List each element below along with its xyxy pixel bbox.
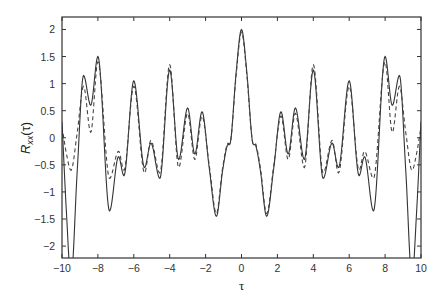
y-tick-label: 0.5 (40, 105, 55, 117)
x-tick-label: 8 (382, 262, 388, 274)
y-axis-ticks: −2−1.5−1−0.500.511.52 (34, 23, 421, 252)
x-tick-label: −8 (92, 262, 104, 274)
x-tick-label: 6 (346, 262, 352, 274)
plot-lines (62, 29, 421, 278)
series-solid (62, 29, 421, 278)
x-axis-ticks: −10−8−6−4−20246810 (53, 17, 427, 274)
x-tick-label: −10 (53, 262, 71, 274)
svg-text:Rxx(τ): Rxx(τ) (18, 122, 35, 154)
y-tick-label: 1.5 (40, 51, 55, 63)
y-tick-label: 0 (49, 132, 55, 144)
x-tick-label: 10 (415, 262, 427, 274)
y-tick-label: −0.5 (34, 159, 55, 171)
y-tick-label: 2 (49, 23, 55, 35)
y-tick-label: −2 (43, 240, 55, 252)
x-tick-label: 4 (310, 262, 316, 274)
x-tick-label: −4 (164, 262, 176, 274)
y-axis-label: Rxx(τ) (18, 122, 35, 154)
y-tick-label: 1 (49, 78, 55, 90)
x-tick-label: 0 (239, 262, 245, 274)
x-axis-label: τ (239, 278, 244, 293)
x-tick-label: 2 (274, 262, 280, 274)
x-tick-label: −6 (128, 262, 140, 274)
y-tick-label: −1.5 (34, 213, 55, 225)
plot-frame (62, 17, 421, 258)
x-tick-label: −2 (200, 262, 212, 274)
y-tick-label: −1 (43, 186, 55, 198)
autocorrelation-chart: −10−8−6−4−20246810 −2−1.5−1−0.500.511.52… (0, 0, 442, 304)
series-dashed (62, 32, 421, 213)
